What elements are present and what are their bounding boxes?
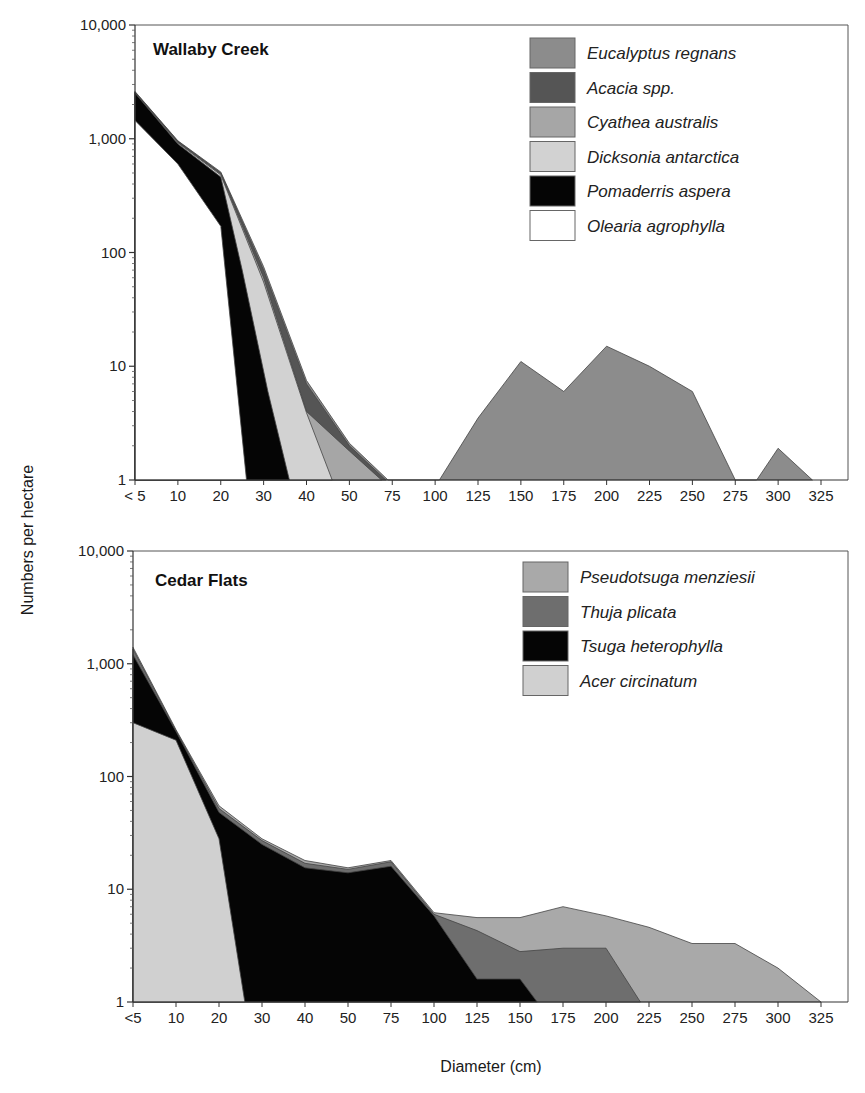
- cedar-flats-panel: 1101001,00010,000<5102030405075100125150…: [78, 542, 848, 1026]
- x-tick-label: 125: [465, 487, 490, 504]
- legend-swatch: [530, 211, 575, 241]
- x-tick-label: 10: [170, 487, 187, 504]
- x-tick-label: 175: [551, 487, 576, 504]
- y-tick-label: 10: [109, 357, 126, 374]
- x-axis-title: Diameter (cm): [440, 1058, 541, 1076]
- y-tick-label: 1,000: [88, 130, 126, 147]
- legend-swatch: [523, 562, 568, 592]
- x-tick-label: 50: [341, 487, 358, 504]
- y-tick-label: 1: [118, 471, 126, 488]
- x-tick-label: 200: [593, 1009, 618, 1026]
- legend-swatch: [530, 38, 575, 68]
- x-tick-label: <5: [124, 1009, 141, 1026]
- x-tick-label: 300: [766, 487, 791, 504]
- x-tick-label: 100: [421, 1009, 446, 1026]
- legend-label: Pomaderris aspera: [587, 182, 731, 201]
- legend-swatch: [523, 631, 568, 661]
- legend-swatch: [530, 142, 575, 172]
- x-tick-label: 100: [423, 487, 448, 504]
- y-tick-label: 100: [99, 768, 124, 785]
- x-tick-label: 75: [383, 1009, 400, 1026]
- x-tick-label: 125: [464, 1009, 489, 1026]
- figure: 1101001,00010,000< 510203040507510012515…: [0, 0, 865, 1093]
- y-tick-label: 1: [116, 993, 124, 1010]
- x-tick-label: 175: [550, 1009, 575, 1026]
- legend-label: Cyathea australis: [587, 113, 719, 132]
- legend-swatch: [530, 176, 575, 206]
- x-tick-label: 75: [384, 487, 401, 504]
- legend-swatch: [530, 107, 575, 137]
- x-tick-label: 225: [636, 1009, 661, 1026]
- x-tick-label: 150: [508, 487, 533, 504]
- legend-label: Acacia spp.: [586, 79, 675, 98]
- legend-label: Tsuga heterophylla: [580, 637, 723, 656]
- panel-title: Cedar Flats: [155, 571, 248, 590]
- x-tick-label: 40: [298, 487, 315, 504]
- legend-swatch: [523, 597, 568, 627]
- y-tick-label: 10: [107, 880, 124, 897]
- legend-label: Thuja plicata: [580, 603, 676, 622]
- x-tick-label: 200: [594, 487, 619, 504]
- x-tick-label: 30: [254, 1009, 271, 1026]
- legend-swatch: [523, 666, 568, 696]
- x-tick-label: 275: [722, 1009, 747, 1026]
- x-tick-label: 10: [168, 1009, 185, 1026]
- y-tick-label: 10,000: [78, 542, 124, 559]
- legend-swatch: [530, 73, 575, 103]
- x-tick-label: 250: [680, 487, 705, 504]
- x-tick-label: 50: [340, 1009, 357, 1026]
- legend-label: Eucalyptus regnans: [587, 44, 737, 63]
- legend-label: Pseudotsuga menziesii: [580, 568, 756, 587]
- legend-label: Dicksonia antarctica: [587, 148, 739, 167]
- x-tick-label: 150: [507, 1009, 532, 1026]
- x-tick-label: 30: [255, 487, 272, 504]
- x-tick-label: 325: [808, 487, 833, 504]
- legend-label: Acer circinatum: [579, 672, 697, 691]
- x-tick-label: 225: [637, 487, 662, 504]
- x-tick-label: 300: [765, 1009, 790, 1026]
- x-tick-label: 40: [297, 1009, 314, 1026]
- y-axis-title: Numbers per hectare: [19, 465, 37, 615]
- panel-title: Wallaby Creek: [153, 40, 269, 59]
- legend-label: Olearia agrophylla: [587, 217, 725, 236]
- x-tick-label: 20: [212, 487, 229, 504]
- y-tick-label: 100: [101, 244, 126, 261]
- wallaby-creek-panel: 1101001,00010,000< 510203040507510012515…: [80, 16, 848, 504]
- x-tick-label: < 5: [124, 487, 145, 504]
- x-tick-label: 250: [679, 1009, 704, 1026]
- x-tick-label: 275: [723, 487, 748, 504]
- y-tick-label: 1,000: [86, 655, 124, 672]
- x-tick-label: 20: [211, 1009, 228, 1026]
- y-tick-label: 10,000: [80, 16, 126, 33]
- x-tick-label: 325: [808, 1009, 833, 1026]
